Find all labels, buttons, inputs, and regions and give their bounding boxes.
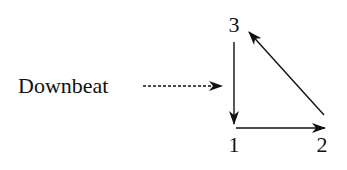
beat-3-label: 3 (229, 12, 240, 37)
downbeat-label: Downbeat (18, 73, 108, 98)
arrow-2-to-3 (249, 32, 324, 115)
beat-2-label: 2 (317, 132, 328, 157)
beat-1-label: 1 (229, 132, 240, 157)
conducting-diagram: Downbeat 1 2 3 (0, 0, 347, 170)
